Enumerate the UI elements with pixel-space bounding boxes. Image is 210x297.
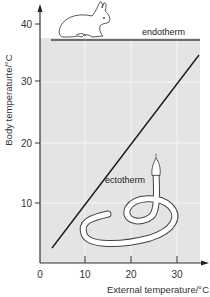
plot-area [40, 37, 200, 263]
endotherm-label: endotherm [142, 27, 185, 37]
x-axis-arrow-icon [201, 261, 209, 266]
y-tick-10: 10 [21, 198, 33, 209]
y-tick-40: 40 [21, 19, 33, 30]
y-tick-30: 30 [21, 76, 33, 87]
ectotherm-label: ectotherm [105, 175, 145, 185]
x-tick-0: 0 [37, 269, 43, 280]
y-ticks [35, 24, 40, 203]
y-axis-title: Body temperaturte/°C [3, 54, 14, 146]
chart: 10 20 30 40 0 10 20 30 External temperat… [0, 0, 210, 297]
x-tick-20: 20 [125, 269, 137, 280]
y-tick-20: 20 [21, 138, 33, 149]
x-tick-10: 10 [79, 269, 91, 280]
x-axis-title: External temperature/°C [107, 284, 209, 295]
x-tick-30: 30 [171, 269, 183, 280]
